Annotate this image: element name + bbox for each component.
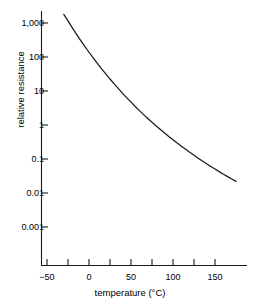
x-axis-ticks [47,259,215,266]
x-tick-label-50: 50 [126,272,136,282]
y-tick-label-10: 10 [34,86,44,96]
chart-plot-area [0,0,260,306]
x-tick-label-minus-50: −50 [39,272,54,282]
y-tick-label-1000: 1,000 [21,18,44,28]
chart-figure: 1,000 100 10 1 0.1 0.01 0.001 −50 0 50 1… [0,0,260,306]
x-tick-label-150: 150 [207,272,222,282]
y-tick-label-1: 1 [39,120,44,130]
x-axis-title: temperature (°C) [0,287,260,298]
y-tick-label-0-01: 0.01 [26,188,44,198]
y-tick-label-0-1: 0.1 [31,154,44,164]
x-tick-label-0: 0 [86,272,91,282]
data-curve [64,14,236,181]
y-tick-label-100: 100 [29,52,44,62]
y-tick-label-0-001: 0.001 [21,222,44,232]
x-tick-label-100: 100 [165,272,180,282]
y-axis-title: relative resistance [15,30,26,150]
